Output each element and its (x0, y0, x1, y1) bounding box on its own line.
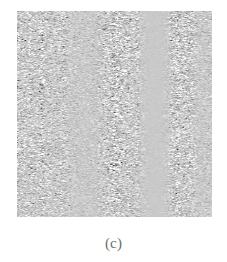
grayscale-residual-matrix-canvas (17, 11, 212, 217)
heatmap-image (17, 11, 212, 217)
figure-panel: (c) (0, 0, 227, 262)
figure-caption: (c) (0, 233, 227, 253)
